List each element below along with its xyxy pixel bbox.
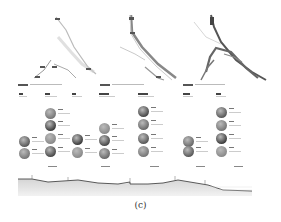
photo-description [58, 151, 70, 152]
habitat-photo [138, 146, 149, 157]
river-map-3 [186, 12, 270, 82]
photo-description [196, 151, 208, 152]
photo-label [151, 147, 156, 148]
map-3-caption-detail [195, 84, 225, 85]
photo-label [112, 136, 117, 137]
column-subheader [138, 96, 154, 97]
column-subheader [72, 96, 82, 97]
column-footer [150, 166, 159, 167]
photo-label [32, 149, 37, 150]
column-footer [234, 166, 243, 167]
map-1-caption-detail [30, 84, 62, 85]
habitat-photo [72, 147, 83, 158]
photo-description [112, 128, 124, 129]
photo-label [151, 107, 156, 108]
river-map-2 [100, 12, 184, 82]
photo-description [229, 151, 241, 152]
column-header [45, 93, 50, 95]
photo-description [85, 152, 97, 153]
column-header [183, 93, 190, 95]
column-subheader [216, 96, 226, 97]
habitat-photo [19, 148, 30, 159]
photo-description [151, 151, 163, 152]
column-header [216, 93, 221, 95]
photo-label [85, 135, 90, 136]
habitat-photo [45, 120, 56, 131]
photo-label [151, 120, 156, 121]
habitat-photo [45, 146, 56, 157]
photo-description [112, 153, 124, 154]
column-header [138, 93, 148, 95]
photo-label [151, 134, 156, 135]
column-subheader [183, 96, 193, 97]
habitat-photo [99, 148, 110, 159]
photo-description [85, 139, 97, 140]
photo-label [229, 108, 234, 109]
habitat-photo [99, 123, 110, 134]
map-1-caption-title [18, 84, 28, 86]
habitat-photo [216, 133, 227, 144]
column-header [72, 93, 76, 95]
habitat-photo [216, 120, 227, 131]
photo-label [229, 121, 234, 122]
photo-description [151, 111, 163, 112]
photo-description [58, 113, 70, 114]
column-subheader [19, 96, 27, 97]
photo-label [112, 149, 117, 150]
column-subheader [99, 96, 115, 97]
habitat-photo [19, 136, 30, 147]
photo-label [85, 148, 90, 149]
photo-label [196, 137, 201, 138]
column-footer [196, 166, 205, 167]
column-footer [48, 166, 57, 167]
photo-label [32, 137, 37, 138]
column-footer [101, 166, 110, 167]
photo-description [229, 125, 241, 126]
photo-description [32, 141, 44, 142]
figure-caption: (c) [0, 200, 281, 210]
photo-label [58, 147, 63, 148]
photo-description [58, 138, 70, 139]
photo-description [112, 140, 124, 141]
photo-label [229, 134, 234, 135]
photo-label [112, 124, 117, 125]
habitat-photo [138, 133, 149, 144]
habitat-photo [45, 108, 56, 119]
photo-description [229, 112, 241, 113]
photo-label [229, 147, 234, 148]
photo-description [229, 138, 241, 139]
habitat-photo [45, 133, 56, 144]
map-3-caption-title [183, 84, 193, 86]
map-2-caption-detail [112, 84, 144, 85]
habitat-photo [138, 119, 149, 130]
habitat-photo [72, 134, 83, 145]
river-map-1 [16, 12, 100, 82]
photo-description [151, 124, 163, 125]
column-header [19, 93, 23, 95]
photo-description [32, 153, 44, 154]
habitat-photo [138, 106, 149, 117]
habitat-photo [99, 135, 110, 146]
photo-label [58, 109, 63, 110]
terrain-profile [18, 174, 252, 196]
photo-label [58, 121, 63, 122]
column-header [99, 93, 109, 95]
column-subheader [45, 96, 57, 97]
photo-label [58, 134, 63, 135]
photo-label [196, 147, 201, 148]
photo-description [151, 138, 163, 139]
photo-description [196, 141, 208, 142]
photo-description [58, 125, 70, 126]
habitat-photo [183, 146, 194, 157]
map-2-caption-title [100, 84, 110, 86]
habitat-photo [216, 107, 227, 118]
habitat-photo [216, 146, 227, 157]
